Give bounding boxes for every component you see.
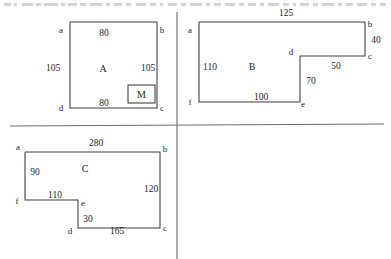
traverse-figures-diagram: Aabcd8010510580MBabcdef125405070110100Ca… [0,0,391,259]
dimension-label-B-3: 70 [306,76,316,86]
figures-group: Aabcd8010510580MBabcdef125405070110100Ca… [16,8,382,236]
dimension-label-A-0: 80 [99,28,109,38]
vertex-label-A-c: c [160,103,164,113]
vertex-label-C-e: e [81,198,85,208]
divider-rules [10,12,384,259]
vertex-label-A-d: d [59,103,64,113]
dimension-label-B-4: 110 [203,62,217,72]
vertex-label-C-c: c [163,223,167,233]
vertex-label-B-c: c [368,51,372,61]
dimension-label-C-3: 110 [48,190,62,200]
vertex-label-C-a: a [16,142,20,152]
dimension-label-C-2: 120 [144,184,159,194]
dimension-label-A-3: 80 [99,98,109,108]
vertex-label-A-b: b [160,25,165,35]
figure-C: Cabcdef2809012011030165 [16,138,168,236]
dimension-label-B-1: 40 [371,35,381,45]
vertex-label-B-d: d [289,47,294,57]
dimension-label-C-1: 90 [30,167,40,177]
vertex-label-B-f: f [189,97,192,107]
dimension-label-B-2: 50 [331,61,341,71]
vertex-label-B-e: e [301,99,305,109]
figure-B: Babcdef125405070110100 [188,8,381,109]
dimension-label-C-5: 165 [110,226,125,236]
dimension-label-A-1: 105 [46,63,61,73]
vertex-label-B-b: b [368,19,373,29]
vertex-label-C-f: f [16,196,19,206]
dimension-label-A-2: 105 [141,63,156,73]
marker-label-A: M [137,89,146,100]
figure-A: Aabcd8010510580M [46,22,165,113]
vertex-label-A-a: a [59,25,63,35]
dimension-label-C-0: 280 [89,138,104,148]
vertex-label-C-d: d [68,226,73,236]
region-label-B: B [249,61,256,72]
vertex-label-C-b: b [163,144,168,154]
vertex-label-B-a: a [188,25,192,35]
dimension-label-C-4: 30 [83,214,93,224]
dimension-label-B-0: 125 [279,8,294,18]
dimension-label-B-5: 100 [254,92,269,102]
horizontal-divider [10,124,384,126]
region-label-A: A [99,63,107,74]
region-label-C: C [82,163,89,174]
diagram-page: Aabcd8010510580MBabcdef125405070110100Ca… [0,0,391,259]
